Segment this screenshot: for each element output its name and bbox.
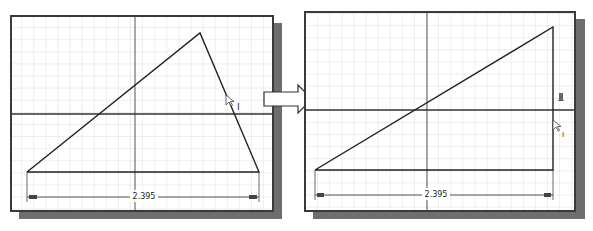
dimension-label[interactable]: 2.395 <box>425 190 448 199</box>
grid <box>306 13 576 212</box>
after-sketch-canvas[interactable]: 2.395 I <box>304 11 576 212</box>
before-sketch-svg: 2.395 I <box>12 17 274 212</box>
dimension-arrow-right-icon <box>544 193 551 197</box>
after-sketch-svg: 2.395 I <box>306 13 576 212</box>
dimension-arrow-right-icon <box>249 195 257 199</box>
dimension-label[interactable]: 2.395 <box>133 192 156 201</box>
dimension-arrow-left-icon <box>29 195 37 199</box>
before-sketch-canvas[interactable]: 2.395 I <box>10 15 274 212</box>
cursor-label: I <box>562 131 564 139</box>
dimension-arrow-left-icon <box>317 193 324 197</box>
cursor-label: I <box>237 102 240 112</box>
